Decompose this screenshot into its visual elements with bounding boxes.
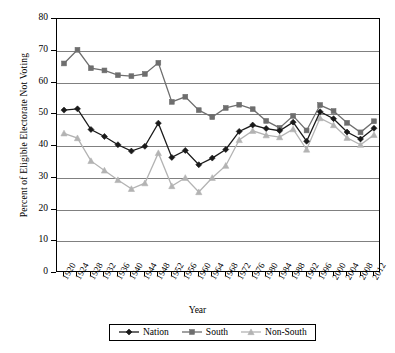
data-point-marker xyxy=(237,102,242,107)
data-point-marker xyxy=(250,122,256,128)
data-point-marker xyxy=(102,68,107,73)
data-point-marker xyxy=(250,128,256,134)
data-point-marker xyxy=(88,158,94,164)
legend-marker-square-icon xyxy=(181,327,203,337)
data-point-marker xyxy=(61,107,67,113)
legend: NationSouthNon-South xyxy=(109,324,316,341)
y-tick-label: 80 xyxy=(8,13,48,23)
data-point-marker xyxy=(345,120,350,125)
legend-item-south[interactable]: South xyxy=(181,327,228,337)
y-tick-label: 30 xyxy=(8,172,48,182)
series-line xyxy=(64,50,374,133)
data-point-marker xyxy=(115,142,121,148)
data-point-marker xyxy=(223,106,228,111)
y-tick-label: 50 xyxy=(8,108,48,118)
plot-area xyxy=(56,18,380,272)
y-tick-label: 40 xyxy=(8,140,48,150)
legend-marker-triangle-icon xyxy=(240,327,262,337)
data-point-marker xyxy=(290,126,296,132)
legend-marker-diamond-icon xyxy=(118,327,140,337)
legend-item-non-south[interactable]: Non-South xyxy=(240,327,307,337)
data-point-marker xyxy=(182,175,188,181)
y-tick-label: 60 xyxy=(8,77,48,87)
data-point-marker xyxy=(101,133,107,139)
data-point-marker xyxy=(129,74,134,79)
data-point-marker xyxy=(156,60,161,65)
series-layer xyxy=(57,19,381,273)
data-point-marker xyxy=(142,143,148,149)
data-point-marker xyxy=(263,126,269,132)
data-point-marker xyxy=(318,103,323,108)
data-point-marker xyxy=(61,130,67,136)
data-point-marker xyxy=(89,66,94,71)
y-tick-label: 70 xyxy=(8,45,48,55)
data-point-marker xyxy=(264,119,269,124)
data-point-marker xyxy=(169,154,175,160)
y-tick-label: 0 xyxy=(8,267,48,277)
series-line xyxy=(64,109,374,165)
data-point-marker xyxy=(169,183,175,189)
data-point-marker xyxy=(169,99,174,104)
y-tick-label: 20 xyxy=(8,204,48,214)
data-point-marker xyxy=(75,47,80,52)
data-point-marker xyxy=(116,73,121,78)
data-point-marker xyxy=(142,72,147,77)
data-point-marker xyxy=(126,329,132,335)
data-point-marker xyxy=(142,180,148,186)
data-point-marker xyxy=(372,119,377,124)
legend-label: Nation xyxy=(143,327,169,337)
voter-turnout-chart: Percent of Eligible Electorate Not Votin… xyxy=(0,0,395,353)
x-axis-title: Year xyxy=(0,305,395,315)
data-point-marker xyxy=(291,113,296,118)
data-point-marker xyxy=(331,109,336,114)
data-point-marker xyxy=(330,122,336,128)
legend-label: Non-South xyxy=(265,327,307,337)
data-point-marker xyxy=(210,115,215,120)
y-tick-label: 10 xyxy=(8,235,48,245)
y-tick-mark xyxy=(51,272,56,273)
legend-item-nation[interactable]: Nation xyxy=(118,327,169,337)
series-south xyxy=(62,47,377,134)
data-point-marker xyxy=(358,130,363,135)
data-point-marker xyxy=(183,94,188,99)
data-point-marker xyxy=(223,163,229,169)
data-point-marker xyxy=(196,108,201,113)
data-point-marker xyxy=(371,132,377,138)
data-point-marker xyxy=(250,107,255,112)
data-point-marker xyxy=(304,128,309,133)
data-point-marker xyxy=(155,150,161,156)
legend-label: South xyxy=(206,327,228,337)
series-non-south xyxy=(61,115,377,195)
series-line xyxy=(64,118,374,192)
data-point-marker xyxy=(189,330,194,335)
series-nation xyxy=(61,106,377,168)
data-point-marker xyxy=(128,148,134,154)
data-point-marker xyxy=(62,61,67,66)
data-point-marker xyxy=(155,120,161,126)
